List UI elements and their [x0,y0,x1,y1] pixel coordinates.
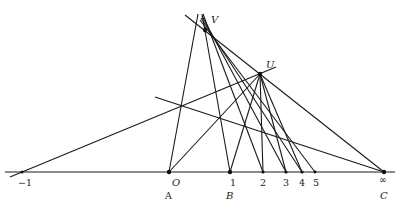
label-u: U [266,59,275,70]
line-v-c [185,15,384,172]
tick-label-o: O [172,177,180,188]
point-5 [314,171,317,174]
tick-label-infinity: ∞ [379,174,387,185]
point-v [203,28,207,32]
line-u-o [169,74,260,172]
point-2 [261,170,264,173]
point-3 [284,170,287,173]
point-1 [228,170,232,174]
line-u-3 [260,74,286,172]
tick-label-3: 3 [283,177,289,188]
line-v-5 [200,20,315,172]
tick-label-2: 2 [260,177,266,188]
tick-label-5: 5 [313,177,319,188]
point-u [258,72,262,76]
line-v-o [169,14,198,172]
line-v-1 [202,14,230,172]
tick-label-4: 4 [299,177,305,188]
line-u-4 [260,74,302,172]
label-c: C [380,190,388,201]
line-neg1-u [10,67,276,177]
point-neg1 [21,171,24,174]
label-b: B [225,190,233,201]
line-u-2 [260,74,263,172]
label-v: V [211,14,220,25]
tick-label-1: 1 [230,177,236,188]
point-o [167,170,171,174]
projective-diagram: V U −1 O 1 2 3 4 5 ∞ A B C [0,0,400,210]
label-a: A [164,190,172,201]
tick-label-neg1: −1 [18,177,32,188]
point-4 [300,170,303,173]
